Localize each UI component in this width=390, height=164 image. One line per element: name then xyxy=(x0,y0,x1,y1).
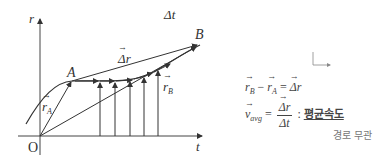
y-axis-label: r xyxy=(29,12,34,25)
displacement-equation: rB − rA = Δr xyxy=(245,80,301,96)
t-axis-label: t xyxy=(196,140,200,153)
delta-t-label: Δt xyxy=(164,8,175,21)
path-arrow xyxy=(134,73,152,79)
point-a-label: A xyxy=(67,66,76,80)
delta-r-label: Δr xyxy=(118,52,131,65)
average-velocity-term: 평균속도 xyxy=(304,108,344,121)
point-b-label: B xyxy=(195,28,204,42)
note-bracket xyxy=(313,52,330,65)
path-independent-note: 경로 무관 xyxy=(333,127,372,142)
r-a-label: rA xyxy=(42,100,52,116)
trajectory-curve xyxy=(26,45,200,124)
delta-r-vector xyxy=(72,45,197,81)
vector-diagram xyxy=(0,0,390,164)
origin-label: O xyxy=(28,141,38,155)
r-b-label: rB xyxy=(163,80,173,96)
average-velocity-equation: vavg = ΔrΔt : 평균속도 xyxy=(245,100,344,131)
